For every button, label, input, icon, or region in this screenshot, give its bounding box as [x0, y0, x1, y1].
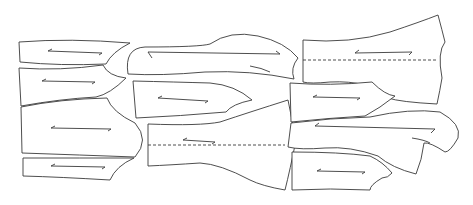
- pattern-piece-left-large: [21, 98, 143, 157]
- pattern-piece-center-middle: [133, 81, 252, 118]
- pattern-canvas: [0, 0, 473, 205]
- pattern-piece-left-bottom: [23, 158, 134, 180]
- pattern-piece-left-top: [19, 40, 130, 64]
- pattern-layout-diagram: [0, 0, 473, 205]
- pattern-piece-center-sleeve: [127, 34, 298, 79]
- pattern-piece-right-bottom: [292, 152, 392, 190]
